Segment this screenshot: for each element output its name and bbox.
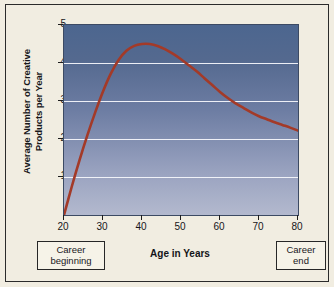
- plot-area: [63, 24, 299, 216]
- annotation-career-end: Career end: [276, 241, 326, 270]
- creativity-curve: [64, 25, 298, 215]
- x-tick-mark-40: [141, 215, 142, 220]
- x-tick-label-70: 70: [245, 221, 271, 232]
- x-tick-label-60: 60: [206, 221, 232, 232]
- annotation-career-end-line-1: Career: [280, 244, 322, 255]
- x-tick-label-40: 40: [128, 221, 154, 232]
- x-tick-label-30: 30: [89, 221, 115, 232]
- x-tick-mark-20: [63, 215, 64, 220]
- x-tick-mark-60: [219, 215, 220, 220]
- x-tick-mark-30: [102, 215, 103, 220]
- annotation-career-beginning-line-2: beginning: [41, 255, 101, 266]
- y-axis-title-line-2: Products per Year: [32, 12, 44, 212]
- x-tick-mark-50: [180, 215, 181, 220]
- annotation-career-beginning-line-1: Career: [41, 244, 101, 255]
- annotation-career-beginning: Career beginning: [37, 241, 105, 270]
- x-tick-label-50: 50: [167, 221, 193, 232]
- y-axis-title: Average Number of Creative Products per …: [21, 12, 44, 212]
- x-tick-label-20: 20: [50, 221, 76, 232]
- x-tick-label-80: 80: [284, 221, 310, 232]
- x-tick-mark-80: [297, 215, 298, 220]
- x-tick-mark-70: [258, 215, 259, 220]
- y-axis-title-line-1: Average Number of Creative: [21, 12, 33, 212]
- annotation-career-end-line-2: end: [280, 255, 322, 266]
- chart-figure: Average Number of Creative Products per …: [0, 0, 334, 287]
- creativity-curve-path: [64, 44, 298, 215]
